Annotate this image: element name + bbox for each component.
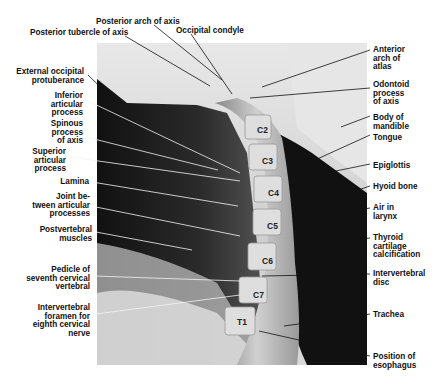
label-thyroid-cartilage-calcification: Thyroid cartilage calcification	[373, 234, 420, 260]
label-position-of-esophagus: Position of esophagus	[373, 353, 416, 370]
vertebra-label-c3: C3	[262, 156, 273, 166]
vertebra-label-c6: C6	[262, 256, 273, 266]
label-tongue: Tongue	[373, 134, 402, 143]
label-epiglottis: Epiglottis	[373, 162, 410, 171]
label-hyoid-bone: Hyoid bone	[373, 183, 418, 192]
label-intervertebral-foramen-eighth-cervical-nerve: Intervertebral foramen for eighth cervic…	[33, 304, 90, 338]
label-occipital-condyle: Occipital condyle	[176, 27, 244, 36]
label-spinous-process-of-axis: Spinous process of axis	[51, 120, 83, 146]
label-air-in-larynx: Air in larynx	[373, 204, 397, 221]
label-joint-between-articular-processes: Joint be- tween articular processes	[32, 193, 90, 219]
lateral-cervical-radiograph	[97, 43, 367, 365]
radiograph-shading	[97, 43, 367, 365]
label-body-of-mandible: Body of mandible	[373, 114, 409, 131]
label-posterior-arch-of-axis: Posterior arch of axis	[96, 18, 180, 27]
label-pedicle-of-seventh-cervical-vertebral: Pedicle of seventh cervical vertebral	[26, 266, 90, 292]
vertebra-label-c4: C4	[268, 188, 279, 198]
label-anterior-arch-of-atlas: Anterior arch of atlas	[373, 46, 405, 72]
label-superior-articular-process: Superior articular process	[32, 148, 66, 174]
vertebra-label-t1: T1	[237, 317, 247, 327]
label-odontoid-process-of-axis: Odontoid process of axis	[373, 81, 409, 107]
vertebra-label-c2: C2	[257, 125, 268, 135]
label-postvertebral-muscles: Postvertebral muscles	[40, 226, 92, 243]
label-external-occipital-protuberance: External occipital protuberance	[16, 68, 84, 85]
vertebra-label-c7: C7	[253, 290, 264, 300]
label-posterior-tubercle-of-axis: Posterior tubercle of axis	[30, 29, 128, 38]
label-inferior-articular-process: Inferior articular process	[51, 92, 83, 118]
label-lamina: Lamina	[60, 178, 89, 187]
vertebra-label-c5: C5	[267, 221, 278, 231]
label-trachea: Trachea	[373, 311, 404, 320]
label-intervertebral-disc: Intervertebral disc	[373, 270, 425, 287]
